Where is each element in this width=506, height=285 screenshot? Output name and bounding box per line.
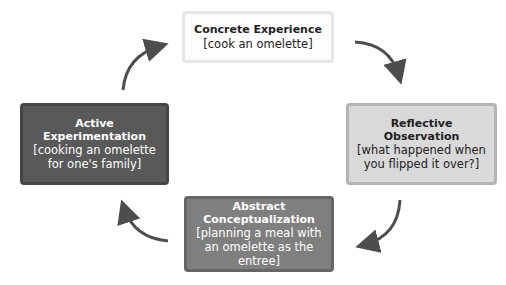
node-subtitle: [cooking an omelette for one's family] bbox=[27, 143, 162, 171]
node-title: Reflective Observation bbox=[353, 117, 490, 144]
arrow-concrete-to-reflective bbox=[355, 42, 399, 76]
node-title: Concrete Experience bbox=[194, 23, 322, 36]
arrow-abstract-to-active bbox=[124, 208, 168, 241]
node-title: Abstract Conceptualization bbox=[191, 200, 327, 227]
node-title: Active Experimentation bbox=[27, 117, 162, 144]
node-subtitle: [cook an omelette] bbox=[203, 37, 312, 51]
node-reflective-observation: Reflective Observation [what happened wh… bbox=[346, 103, 497, 185]
node-concrete-experience: Concrete Experience [cook an omelette] bbox=[182, 11, 334, 63]
arrow-active-to-concrete bbox=[123, 46, 160, 90]
node-subtitle: [planning a meal with an omelette as the… bbox=[191, 226, 327, 268]
node-subtitle: [what happened when you flipped it over?… bbox=[353, 143, 490, 171]
arrow-reflective-to-abstract bbox=[364, 200, 400, 245]
node-abstract-conceptualization: Abstract Conceptualization [planning a m… bbox=[184, 196, 334, 272]
node-active-experimentation: Active Experimentation [cooking an omele… bbox=[20, 103, 169, 185]
